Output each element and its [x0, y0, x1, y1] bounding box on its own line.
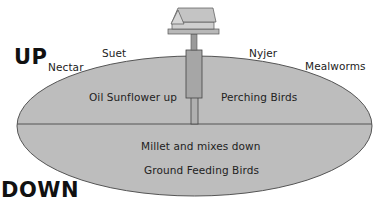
bird-feeding-diagram: UP DOWN Nectar Suet Nyjer Mealworms Oil …: [0, 0, 380, 207]
label-nyjer: Nyjer: [249, 47, 277, 59]
label-millet-down: Millet and mixes down: [141, 140, 261, 152]
feeder-tube: [186, 50, 202, 98]
bird-table-icon: [168, 8, 219, 34]
down-label: DOWN: [1, 178, 79, 202]
label-ground-feeding-birds: Ground Feeding Birds: [144, 164, 259, 176]
label-nectar: Nectar: [48, 61, 84, 73]
label-suet: Suet: [102, 47, 126, 59]
label-oil-sunflower-up: Oil Sunflower up: [89, 91, 177, 103]
label-mealworms: Mealworms: [305, 60, 366, 72]
up-label: UP: [14, 45, 47, 69]
label-perching-birds: Perching Birds: [221, 91, 297, 103]
pole-lower: [191, 97, 198, 124]
pole-upper: [191, 34, 197, 50]
